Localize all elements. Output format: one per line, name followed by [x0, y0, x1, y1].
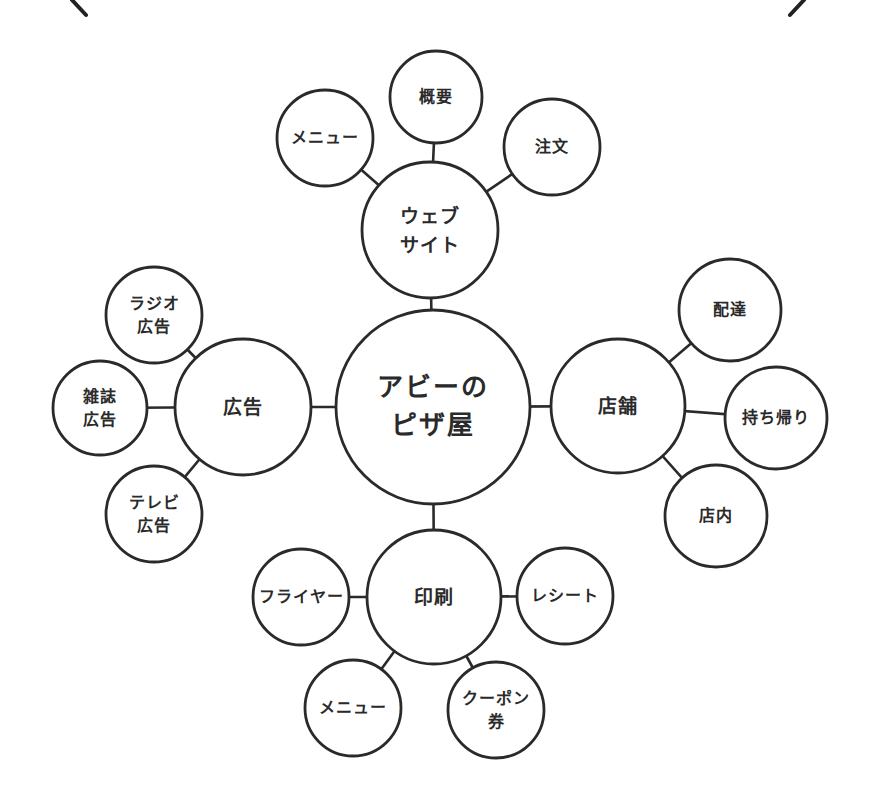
- node-circle-website-overview[interactable]: [390, 51, 482, 143]
- node-circle-website-menu[interactable]: [277, 90, 373, 186]
- mind-map-svg: [0, 0, 872, 806]
- node-circle-website[interactable]: [362, 162, 498, 298]
- node-circle-print-receipt[interactable]: [517, 548, 613, 644]
- node-circle-print-flyer[interactable]: [253, 549, 349, 645]
- node-circle-print-menu[interactable]: [305, 660, 401, 756]
- node-circles: [53, 51, 827, 758]
- node-circle-print-coupon[interactable]: [448, 662, 544, 758]
- page-corner-strokes: [72, 0, 804, 15]
- node-circle-store-dinein[interactable]: [665, 465, 767, 567]
- node-circle-root[interactable]: [336, 310, 530, 504]
- node-circle-ad-radio[interactable]: [106, 267, 202, 363]
- node-circle-store-delivery[interactable]: [679, 259, 781, 361]
- right-bracket-stroke: [790, 0, 804, 15]
- node-circle-ad-tv[interactable]: [106, 466, 202, 562]
- node-circle-store[interactable]: [551, 339, 685, 473]
- node-circle-print[interactable]: [367, 530, 501, 664]
- left-bracket-stroke: [72, 0, 86, 15]
- node-circle-store-takeout[interactable]: [725, 367, 827, 469]
- node-circle-website-order[interactable]: [504, 99, 600, 195]
- mind-map-canvas: アビーの ピザ屋ウェブ サイト概要メニュー注文広告ラジオ 広告雑誌 広告テレビ …: [0, 0, 872, 806]
- node-circle-ad-magazine[interactable]: [53, 361, 147, 455]
- node-circle-advertising[interactable]: [175, 339, 311, 475]
